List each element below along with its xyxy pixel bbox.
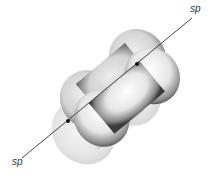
label-sp-top-right: sp bbox=[190, 3, 201, 14]
nucleus-lower bbox=[66, 119, 70, 123]
sp-orbital-diagram bbox=[0, 0, 213, 180]
nucleus-upper bbox=[135, 62, 139, 66]
label-sp-bottom-left: sp bbox=[12, 156, 23, 167]
